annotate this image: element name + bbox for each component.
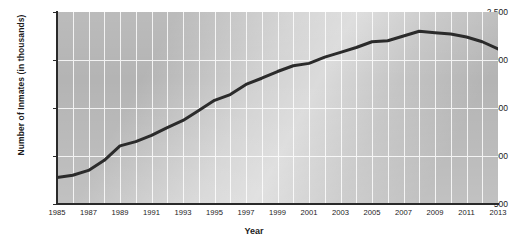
inmates-series-line <box>57 12 498 204</box>
x-axis-line <box>56 203 499 205</box>
y-axis-title: Number of Inmates (in thousands) <box>16 10 26 160</box>
y-axis-line <box>56 11 58 205</box>
x-axis-tick-label: 2013 <box>478 208 513 217</box>
plot-area <box>57 12 498 204</box>
x-axis-title: Year <box>0 226 508 236</box>
